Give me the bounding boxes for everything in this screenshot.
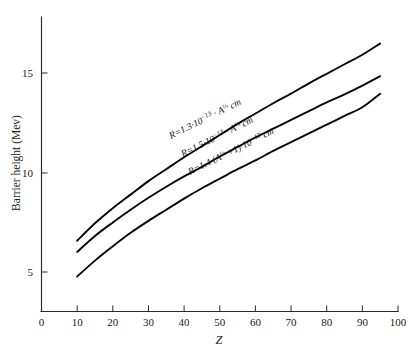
x-tick-label-20: 20 (107, 316, 119, 328)
chart-canvas: 15 10 5 0 10 20 30 40 50 60 70 80 90 100… (0, 0, 411, 347)
curve-r14 (77, 94, 380, 277)
figure-container: 15 10 5 0 10 20 30 40 50 60 70 80 90 100… (0, 0, 411, 347)
y-tick-label-15: 15 (22, 67, 34, 79)
curve-labels-group: R=1.3·10−13 · A⅓ cm R=1.5·10−13 · A⅓ cm … (166, 96, 276, 179)
x-tick-label-50: 50 (214, 316, 226, 328)
x-tick-label-10: 10 (72, 316, 84, 328)
x-tick-label-90: 90 (357, 316, 369, 328)
data-curves-group (77, 44, 380, 277)
y-tick-label-10: 10 (22, 167, 34, 179)
x-tick-label-40: 40 (179, 316, 191, 328)
y-axis-title: Barrier height (Mev) (10, 115, 23, 211)
x-tick-label-80: 80 (321, 316, 333, 328)
x-tick-label-30: 30 (143, 316, 155, 328)
axis-group (41, 17, 398, 312)
x-tick-label-60: 60 (250, 316, 262, 328)
x-tick-label-100: 100 (390, 316, 407, 328)
x-tick-labels: 0 10 20 30 40 50 60 70 80 90 100 (39, 316, 407, 328)
x-tick-label-70: 70 (286, 316, 298, 328)
x-tick-label-0: 0 (39, 316, 45, 328)
y-tick-labels: 15 10 5 (22, 67, 34, 278)
y-tick-label-5: 5 (28, 266, 34, 278)
x-axis-title: Z (216, 333, 224, 347)
curve-r13 (77, 44, 380, 241)
